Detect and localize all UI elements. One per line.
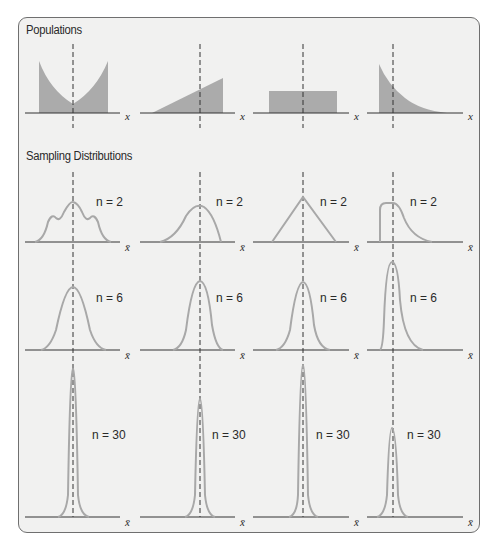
xbar-label: x̄ bbox=[467, 241, 473, 253]
population-exponential: x bbox=[367, 44, 473, 128]
x-axis-label: x bbox=[124, 110, 130, 122]
xbar-label: x̄ bbox=[353, 516, 359, 528]
n-label: n = 6 bbox=[320, 291, 347, 305]
x-axis-label: x bbox=[353, 110, 359, 122]
xbar-label: x̄ bbox=[124, 516, 130, 528]
x-axis-label: x bbox=[467, 110, 473, 122]
n-label: n = 2 bbox=[216, 195, 243, 209]
n-label: n = 30 bbox=[316, 428, 350, 442]
xbar-label: x̄ bbox=[124, 241, 130, 253]
xbar-label: x̄ bbox=[353, 349, 359, 361]
population-increasing: x bbox=[140, 44, 245, 128]
xbar-label: x̄ bbox=[353, 241, 359, 253]
sampling-row-n30: n = 30 n = 30 n = 30 n = 30 x̄ x̄ x̄ x̄ bbox=[25, 365, 473, 528]
population-u-shaped: x bbox=[25, 44, 130, 128]
xbar-label: x̄ bbox=[239, 241, 245, 253]
xbar-label: x̄ bbox=[467, 516, 473, 528]
xbar-label: x̄ bbox=[239, 516, 245, 528]
n-label: n = 6 bbox=[410, 291, 437, 305]
n-label: n = 30 bbox=[92, 428, 126, 442]
xbar-label: x̄ bbox=[124, 349, 130, 361]
population-uniform: x bbox=[253, 44, 359, 128]
n-label: n = 30 bbox=[407, 428, 441, 442]
n-label: n = 2 bbox=[96, 195, 123, 209]
xbar-label: x̄ bbox=[467, 349, 473, 361]
sampling-row-n6: n = 6 n = 6 n = 6 n = 6 x̄ x̄ x̄ x̄ bbox=[25, 262, 473, 361]
distribution-diagram: x x x x n = 2 n = 2 n = 2 n = 2 x̄ bbox=[0, 0, 494, 548]
n-label: n = 2 bbox=[410, 195, 437, 209]
n-label: n = 6 bbox=[96, 291, 123, 305]
xbar-label: x̄ bbox=[239, 349, 245, 361]
sampling-row-n2: n = 2 n = 2 n = 2 n = 2 x̄ x̄ x̄ x̄ bbox=[25, 195, 473, 253]
n-label: n = 6 bbox=[216, 291, 243, 305]
n-label: n = 30 bbox=[212, 428, 246, 442]
n-label: n = 2 bbox=[320, 195, 347, 209]
x-axis-label: x bbox=[239, 110, 245, 122]
